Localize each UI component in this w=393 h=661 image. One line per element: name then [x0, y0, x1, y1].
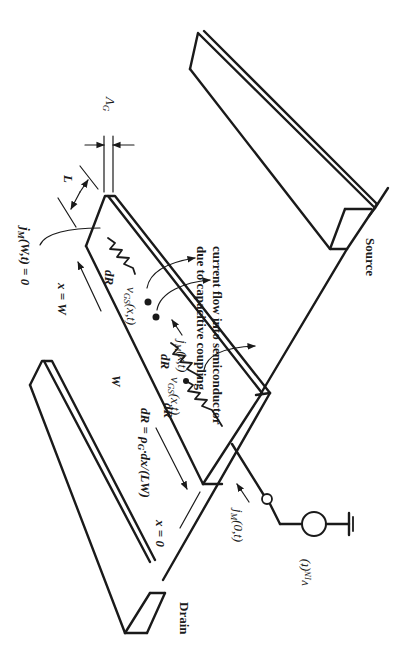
source-label: Source — [363, 238, 377, 276]
jm-xt-arrow — [172, 320, 182, 335]
width-label: W — [109, 375, 123, 387]
gate-transmission-line-diagram: ΛG L jM(W,t) = 0 x = W dR vGS(x,t) curre… — [0, 0, 393, 661]
jm-0t-label: jM(0,t) — [227, 509, 245, 542]
x-0-arrow — [156, 428, 187, 489]
jm-0t-arrow — [237, 484, 249, 502]
node-dot-1 — [145, 299, 152, 306]
x-equals-w-label: x = W — [55, 283, 69, 315]
vgs-upper-label: vGS(x,t) — [120, 287, 138, 325]
jm-xt-label: jM(x,t) — [171, 340, 189, 372]
voltage-source — [302, 512, 349, 536]
source-electrode — [190, 31, 388, 249]
drain-label: Drain — [177, 602, 191, 635]
gate-length-label: L — [61, 175, 75, 183]
end-boundary-condition: jM(W,t) = 0 — [14, 227, 32, 285]
resistor-upper — [108, 238, 135, 274]
resistor-upper-label: dR — [102, 270, 116, 285]
resistance-formula: dR = ρG·dx/(LW) — [134, 408, 152, 498]
coupling-note: current flow into semiconductor due to c… — [193, 246, 225, 424]
x-equals-0-label: x = 0 — [153, 520, 167, 547]
source-gate-connection-line — [260, 249, 347, 395]
input-voltage-label: vIN(t) — [297, 559, 315, 586]
resistor-lower-label: dR — [158, 354, 172, 369]
resistor-lower-label-2: dR — [161, 403, 175, 418]
gate-thickness-label: ΛG — [99, 97, 117, 111]
gate-thickness-dimension — [85, 136, 134, 192]
node-dot-2 — [153, 314, 160, 321]
ground-icon — [349, 513, 353, 535]
